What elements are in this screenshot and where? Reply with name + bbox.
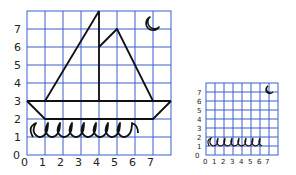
svg-text:1: 1 <box>39 156 46 169</box>
svg-text:4: 4 <box>239 158 244 166</box>
svg-text:2: 2 <box>57 156 64 169</box>
small-y-axis-labels: 0 1 2 3 4 5 6 7 <box>195 89 202 160</box>
svg-text:7: 7 <box>14 23 21 36</box>
svg-text:2: 2 <box>197 134 201 142</box>
svg-text:5: 5 <box>197 107 201 115</box>
large-x-axis-labels: 0 1 2 3 4 5 6 7 <box>21 156 154 169</box>
svg-text:0: 0 <box>13 149 20 162</box>
svg-text:5: 5 <box>14 59 21 72</box>
svg-text:1: 1 <box>197 143 201 151</box>
svg-text:4: 4 <box>197 116 202 124</box>
svg-text:7: 7 <box>147 156 154 169</box>
svg-text:5: 5 <box>111 156 118 169</box>
svg-text:5: 5 <box>248 158 252 166</box>
svg-text:6: 6 <box>14 41 21 54</box>
svg-text:7: 7 <box>197 89 201 97</box>
waves-small <box>208 138 262 146</box>
waves-large <box>31 123 138 137</box>
svg-text:0: 0 <box>21 156 28 169</box>
svg-text:2: 2 <box>221 158 225 166</box>
svg-text:3: 3 <box>230 158 234 166</box>
svg-text:3: 3 <box>14 95 21 108</box>
svg-text:0: 0 <box>195 152 199 160</box>
svg-text:2: 2 <box>14 113 21 126</box>
svg-text:6: 6 <box>129 156 136 169</box>
svg-text:1: 1 <box>212 158 216 166</box>
sailboat-drawing <box>27 11 171 137</box>
small-x-axis-labels: 0 1 2 3 4 5 6 7 <box>203 158 269 166</box>
svg-text:1: 1 <box>14 131 21 144</box>
large-y-axis-labels: 0 1 2 3 4 5 6 7 <box>13 23 21 162</box>
svg-text:7: 7 <box>265 158 269 166</box>
svg-text:4: 4 <box>14 77 21 90</box>
svg-text:3: 3 <box>197 125 201 133</box>
coordinate-grids-figure: 0 1 2 3 4 5 6 7 0 1 2 3 4 5 6 7 0 1 2 3 <box>0 0 296 175</box>
svg-text:0: 0 <box>203 158 207 166</box>
left-sail <box>45 11 99 101</box>
svg-text:3: 3 <box>75 156 82 169</box>
svg-text:4: 4 <box>93 156 100 169</box>
svg-text:6: 6 <box>257 158 262 166</box>
svg-text:6: 6 <box>197 98 202 106</box>
